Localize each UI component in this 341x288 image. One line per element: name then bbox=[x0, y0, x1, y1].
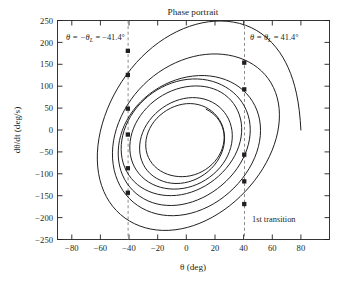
marker-point bbox=[242, 202, 246, 206]
right-label-part2: = 41.4° bbox=[272, 33, 299, 42]
y-tick-label: 200 bbox=[40, 38, 53, 48]
left-label-part2: = −41.4° bbox=[93, 33, 125, 42]
marker-point bbox=[242, 61, 246, 65]
x-tick-label: −20 bbox=[151, 243, 164, 253]
left-label-part1: θ = −θ bbox=[66, 33, 90, 42]
right-switching-line-label: θ = θL = 41.4° bbox=[250, 33, 299, 43]
x-tick-label: 60 bbox=[268, 243, 277, 253]
right-label-part1: θ = θ bbox=[250, 33, 268, 42]
x-axis-label: θ (deg) bbox=[180, 262, 206, 272]
x-tick-label: 0 bbox=[184, 243, 188, 253]
y-tick-label: 0 bbox=[49, 125, 53, 135]
x-tick-label: −40 bbox=[122, 243, 135, 253]
y-tick-label: −250 bbox=[35, 235, 53, 245]
y-tick-label: 50 bbox=[44, 103, 53, 113]
phase-portrait-svg: Phase portrait bbox=[0, 0, 341, 288]
first-transition-label: 1st transition bbox=[252, 215, 296, 224]
y-tick-label: 150 bbox=[40, 59, 53, 69]
left-switching-line-label: θ = −θL = −41.4° bbox=[66, 33, 125, 43]
marker-point bbox=[242, 153, 246, 157]
phase-portrait-figure: Phase portrait bbox=[0, 0, 341, 288]
x-tick-label: 20 bbox=[211, 243, 220, 253]
marker-point bbox=[126, 166, 130, 170]
marker-point bbox=[126, 73, 130, 77]
x-tick-label: 40 bbox=[239, 243, 248, 253]
marker-point bbox=[126, 132, 130, 136]
marker-point bbox=[126, 49, 130, 53]
y-tick-label: 100 bbox=[40, 81, 53, 91]
marker-point bbox=[242, 179, 246, 183]
x-tick-label: −80 bbox=[65, 243, 78, 253]
marker-point bbox=[126, 191, 130, 195]
x-tick-label: −60 bbox=[94, 243, 107, 253]
marker-point bbox=[242, 87, 246, 91]
y-tick-label: −100 bbox=[35, 169, 53, 179]
y-axis-label: dθ/dt (deg/s) bbox=[12, 107, 22, 154]
x-tick-labels: −80 −60 −40 −20 0 20 40 60 80 bbox=[65, 243, 305, 253]
marker-point bbox=[126, 107, 130, 111]
y-tick-label: −150 bbox=[35, 191, 53, 201]
y-tick-label: −200 bbox=[35, 213, 53, 223]
y-tick-label: −50 bbox=[40, 147, 53, 157]
chart-title: Phase portrait bbox=[168, 7, 219, 17]
x-tick-label: 80 bbox=[297, 243, 306, 253]
y-tick-label: 250 bbox=[40, 16, 53, 26]
